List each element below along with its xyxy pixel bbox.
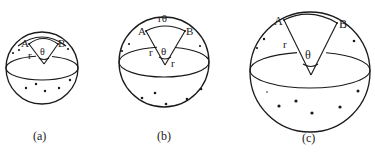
galaxy-dot <box>12 52 14 54</box>
equator-back-left <box>250 53 297 70</box>
label-r-left: r <box>149 46 153 58</box>
label-r: r <box>283 38 287 50</box>
label-r-right: r <box>171 57 175 69</box>
galaxy-dot <box>121 50 123 52</box>
label-a: A <box>274 14 283 28</box>
equator-back-right <box>52 57 78 69</box>
galaxy-dot <box>353 40 356 43</box>
equator-back-right <box>326 53 370 70</box>
galaxy-dot <box>25 87 27 89</box>
galaxy-dot <box>357 90 360 93</box>
label-theta: θ <box>40 46 45 57</box>
galaxy-dot <box>277 104 280 107</box>
galaxy-dot <box>266 91 268 93</box>
panel-caption: (c) <box>302 131 315 145</box>
sector-arc <box>146 26 185 31</box>
galaxy-dot <box>35 83 37 85</box>
galaxy-dot <box>44 90 46 92</box>
label-a: A <box>138 25 146 37</box>
angle-arc <box>39 58 49 60</box>
galaxy-dot <box>263 38 265 40</box>
galaxy-dot <box>58 87 60 89</box>
sphere-outline <box>119 17 209 107</box>
galaxy-dot <box>18 49 20 51</box>
panel-caption: (a) <box>33 129 46 143</box>
sector-radius-b <box>311 23 337 75</box>
panel-c: A B r θ (c) <box>250 12 370 145</box>
sphere-outline <box>6 32 78 104</box>
equator-back-right <box>175 48 209 63</box>
galaxy-dot <box>128 43 130 45</box>
galaxy-dot <box>141 97 144 100</box>
label-b: B <box>58 37 65 49</box>
equator-front <box>6 68 78 80</box>
label-theta: θ <box>161 45 166 57</box>
label-b: B <box>339 17 347 31</box>
galaxy-dot <box>165 103 168 106</box>
galaxy-dot <box>338 105 341 108</box>
label-r: r <box>28 49 32 61</box>
galaxy-dot <box>154 92 157 95</box>
label-a: A <box>21 37 29 49</box>
point-a <box>283 19 285 21</box>
panel-b: rθ A B r r θ (b) <box>119 12 209 143</box>
panel-caption: (b) <box>157 129 171 143</box>
galaxy-dot <box>186 98 189 101</box>
galaxy-dot <box>69 79 71 81</box>
galaxy-dot <box>199 45 201 47</box>
label-b: B <box>186 25 193 37</box>
point-b <box>336 22 338 24</box>
galaxy-dot <box>200 88 203 91</box>
galaxy-dot <box>310 111 313 114</box>
galaxy-dot <box>256 47 258 49</box>
panel-a: A B r θ (a) <box>6 32 78 143</box>
galaxy-dot <box>294 99 297 102</box>
label-theta: θ <box>305 48 311 62</box>
galaxy-dot <box>67 48 69 50</box>
label-arc-length: rθ <box>158 12 167 24</box>
balloon-expansion-diagram: A B r θ (a) rθ A B r r θ <box>0 0 375 152</box>
sector-radius-b <box>44 44 58 64</box>
